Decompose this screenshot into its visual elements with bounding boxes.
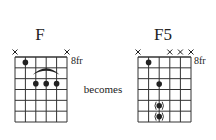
muted-x-icon xyxy=(13,50,18,55)
right-paren-icon xyxy=(162,102,163,110)
finger-dot xyxy=(23,60,29,66)
fret-position-label: 8fr xyxy=(194,55,206,66)
fret-position-label: 8fr xyxy=(71,55,83,66)
muted-x-icon xyxy=(65,50,70,55)
muted-x-icon xyxy=(189,50,194,55)
becomes-caption: becomes xyxy=(84,83,122,95)
left-paren-icon xyxy=(155,113,156,121)
muted-x-icon xyxy=(136,50,141,55)
muted-string-markers xyxy=(136,50,194,55)
chord-diagram-f5: F5 8fr xyxy=(136,25,207,122)
right-paren-icon xyxy=(162,113,163,121)
chord-comparison-figure: F 8fr becomes F5 8fr xyxy=(0,0,216,140)
chord-diagrams-canvas: F 8fr becomes F5 8fr xyxy=(0,0,216,140)
finger-dot xyxy=(146,60,152,66)
chord-name-f5: F5 xyxy=(154,25,172,44)
optional-finger-dot xyxy=(156,114,162,120)
muted-x-icon xyxy=(167,50,172,55)
finger-dot xyxy=(33,81,39,87)
finger-dots xyxy=(23,60,60,87)
optional-finger-dot xyxy=(156,103,162,109)
chord-name-f: F xyxy=(35,25,44,44)
finger-dot xyxy=(43,81,49,87)
muted-x-icon xyxy=(178,50,183,55)
chord-diagram-f: F 8fr xyxy=(13,25,84,122)
left-paren-icon xyxy=(155,102,156,110)
finger-dot xyxy=(54,81,60,87)
fretboard-grid xyxy=(138,57,191,122)
finger-dot xyxy=(156,81,162,87)
fretboard-grid xyxy=(15,57,67,122)
muted-string-markers xyxy=(13,50,70,55)
